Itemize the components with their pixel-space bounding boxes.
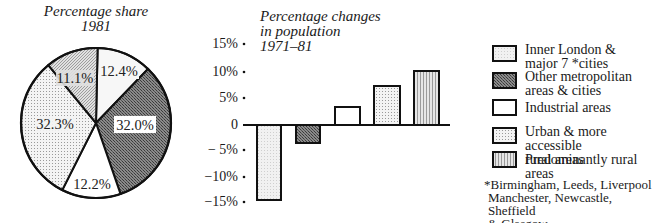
bar-inner-london [257,125,281,200]
pie-label-urban-accessible: 32.3% [36,116,73,132]
legend-item-inner-london: Inner London & major 7 *cities [525,43,660,71]
footnote-line3: & Glasgow [484,217,660,223]
y-tick-10: 10% [194,65,238,79]
bar-other-metropolitan [296,125,320,143]
legend-item-other-metropolitan: Other metropolitan areas & cities [525,70,660,98]
pie-label-industrial: 12.2% [73,176,110,192]
y-tick-5: 5% [194,91,238,105]
pie-label-inner-london: 12.4% [100,63,137,79]
footnote-line2: Manchester, Newcastle, Sheffield [484,191,660,217]
bar-industrial [335,107,360,125]
y-tick-0: 0 [194,118,238,132]
y-tick-minus-15: −15% [194,195,238,209]
footnote: *Birmingham, Leeds, Liverpool Manchester… [484,178,660,223]
legend-item-industrial: Industrial areas [525,101,660,115]
legend-swatch-vertical-hatch [493,152,516,167]
bar-chart [243,43,450,204]
legend-swatch-dark-crosshatch [493,73,516,88]
legend-swatch-light-shade [493,46,516,61]
legend-swatch-white [493,100,516,115]
bar-predominantly-rural [414,71,439,125]
bar-urban-accessible [374,86,400,125]
y-tick-minus-5: − 5% [194,143,238,157]
y-tick-15: 15% [194,37,238,51]
pie-label-other-metropolitan: 32.0% [116,117,153,133]
pie-chart: 12.4% 32.0% 12.2% 32.3% 11.1% [21,48,171,198]
legend-swatch-stipple [493,128,516,143]
legend-swatches [493,46,516,167]
y-tick-minus-10: −10% [194,170,238,184]
pie-label-predominantly-rural: 11.1% [57,70,94,86]
